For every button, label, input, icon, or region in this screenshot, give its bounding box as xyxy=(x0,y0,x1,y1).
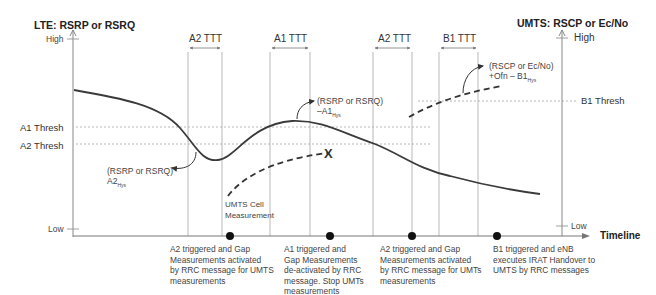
a2-hys-arrow-icon xyxy=(172,152,196,168)
b1-hys-arrow-icon xyxy=(463,66,483,93)
umts-measurement-curve-2 xyxy=(409,86,502,117)
ttt-label-a1: A1 TTT xyxy=(274,33,307,44)
ttt-label-a2-second: A2 TTT xyxy=(378,33,411,44)
ttt-label-a2: A2 TTT xyxy=(189,33,222,44)
right-low-label: Low xyxy=(571,221,587,231)
a1-hys-annotation: (RSRP or RSRQ) –A1Hys xyxy=(317,96,383,120)
event-caption-a2: A2 triggered and Gap Measurements activa… xyxy=(170,244,274,286)
left-high-label: High xyxy=(46,34,63,44)
a2-thresh-label: A2 Thresh xyxy=(20,140,64,151)
a1-thresh-label: A1 Thresh xyxy=(20,122,64,133)
b1-thresh-label: B1 Thresh xyxy=(581,95,625,106)
stop-measurement-x-icon: X xyxy=(324,146,333,161)
left-low-label: Low xyxy=(48,224,64,234)
right-axis-title: UMTS: RSCP or Ec/No xyxy=(517,17,628,29)
umts-cell-measurement-label: UMTS Cell Measurement xyxy=(225,200,274,221)
b1-hys-annotation: (RSCP or Ec/No) +Ofn – B1Hys xyxy=(489,61,554,85)
left-axis-title: LTE: RSRP or RSRQ xyxy=(34,19,135,31)
umts-measurement-curve xyxy=(228,153,328,196)
ttt-label-b1: B1 TTT xyxy=(443,33,476,44)
a1-hys-arrow-icon xyxy=(297,101,314,119)
timeline-arrow-icon xyxy=(582,233,590,239)
event-caption-b1: B1 triggered and eNB executes IRAT Hando… xyxy=(493,244,595,276)
event-caption-a1: A1 triggered and Gap Measurements de-act… xyxy=(284,244,364,295)
timeline-label: Timeline xyxy=(600,230,640,241)
a2-hys-annotation: (RSRP or RSRQ) A2Hys xyxy=(107,166,173,190)
event-caption-a2-second: A2 triggered and Gap Measurements activa… xyxy=(380,244,481,286)
right-high-label: High xyxy=(574,32,595,43)
